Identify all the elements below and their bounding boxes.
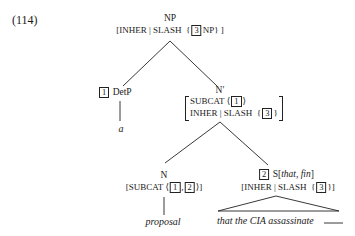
clause-words: that the CIA assassinate (217, 215, 314, 226)
branch-nbar-s (220, 122, 268, 165)
branch-np-detp (123, 41, 170, 86)
tag-1: 1 (99, 87, 109, 98)
branch-nbar-n (165, 122, 220, 163)
branch-np-nbar (170, 41, 217, 86)
triangle-s (218, 196, 339, 211)
tag-1: 1 (231, 96, 241, 107)
n-avm: [SUBCAT ⟨1,2⟩] (126, 182, 203, 193)
tag-2: 2 (185, 182, 195, 193)
example-number: (114) (12, 13, 38, 28)
n-category: N (161, 170, 168, 180)
tag-3: 3 (316, 182, 326, 193)
tag-3: 3 (262, 108, 272, 119)
nbar-category: N′ (216, 85, 225, 95)
root-avm: [INHER | SLASH {3NP} ] (116, 25, 223, 36)
s-avm: [INHER | SLASH {3}] (241, 182, 335, 193)
det-word: a (119, 123, 124, 134)
feature-path: INHER | SLASH (119, 25, 181, 35)
s-features: that, fin (281, 169, 311, 179)
tag-2: 2 (259, 169, 269, 180)
tag-1: 1 (170, 182, 180, 193)
tag-3: 3 (191, 25, 201, 36)
nbar-subcat-row: SUBCAT ⟨1⟩ (190, 96, 246, 107)
root-category: NP (164, 13, 176, 23)
s-node: 2 S[that, fin] (258, 169, 314, 180)
nbar-slash-row: INHER | SLASH {3} (190, 108, 278, 119)
noun-word: proposal (145, 216, 180, 227)
detp-category: DetP (113, 87, 132, 97)
detp-node: 1 DetP (98, 87, 132, 98)
nbar-avm: SUBCAT ⟨1⟩ INHER | SLASH {3} (185, 96, 283, 121)
